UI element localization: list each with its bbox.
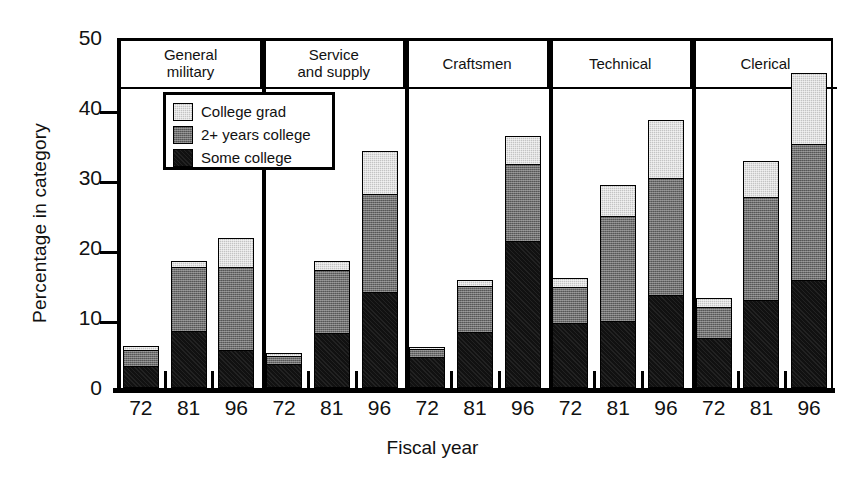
- x-axis-line: [113, 388, 835, 393]
- bar-segment-twoyr: [458, 286, 492, 332]
- bar-segment-grad: [601, 186, 635, 216]
- bar-segment-twoyr: [315, 270, 349, 333]
- x-minor-tick: [737, 371, 740, 388]
- legend-label-2plus-years-college: 2+ years college: [201, 127, 311, 142]
- x-tick-label: 81: [309, 396, 355, 420]
- bar-technical-96: [648, 120, 684, 388]
- bar-segment-some: [410, 357, 444, 387]
- bar-segment-grad: [649, 121, 683, 178]
- bar-segment-some: [172, 331, 206, 387]
- y-tick-label: 20: [56, 237, 102, 258]
- legend-swatch-college-grad: [173, 103, 193, 121]
- x-tick-label: 72: [404, 396, 450, 420]
- bar-segment-grad: [697, 299, 731, 308]
- bar-segment-twoyr: [124, 350, 158, 366]
- bar-craftsmen-81: [457, 280, 493, 389]
- bar-segment-twoyr: [744, 197, 778, 300]
- bar-service-72: [266, 353, 302, 388]
- group-header-2: Serviceand supply: [264, 41, 407, 87]
- bar-segment-grad: [792, 74, 826, 144]
- chart-legend: College grad 2+ years college Some colle…: [163, 92, 335, 170]
- group-header-label: Clerical: [740, 56, 790, 73]
- y-tick-label: 10: [56, 307, 102, 328]
- legend-item: 2+ years college: [173, 123, 326, 146]
- x-tick-label: 96: [357, 396, 403, 420]
- y-tick-mark: [100, 251, 121, 254]
- bar-segment-some: [363, 292, 397, 387]
- legend-label-college-grad: College grad: [201, 104, 286, 119]
- y-tick-mark: [100, 111, 121, 114]
- y-tick-label: 40: [56, 97, 102, 118]
- x-tick-label: 96: [786, 396, 832, 420]
- bar-service-96: [362, 151, 398, 388]
- x-tick-label: 81: [595, 396, 641, 420]
- bar-craftsmen-72: [409, 347, 445, 388]
- group-separator: [405, 41, 409, 391]
- bar-clerical-96: [791, 73, 827, 388]
- legend-item: Some college: [173, 146, 326, 169]
- legend-item: College grad: [173, 100, 326, 123]
- bar-segment-some: [697, 338, 731, 387]
- x-minor-tick: [593, 371, 596, 388]
- x-tick-label: 81: [452, 396, 498, 420]
- group-header-label: Technical: [589, 56, 652, 73]
- legend-label-some-college: Some college: [201, 150, 292, 165]
- bar-technical-81: [600, 185, 636, 388]
- x-minor-tick: [307, 371, 310, 388]
- y-axis-tick-labels: 01020304050: [47, 0, 102, 483]
- x-tick-label: 81: [738, 396, 784, 420]
- y-tick-label: 30: [56, 167, 102, 188]
- bar-segment-twoyr: [219, 267, 253, 350]
- bar-general-72: [123, 346, 159, 388]
- bar-segment-some: [553, 323, 587, 387]
- x-axis-title: Fiscal year: [0, 437, 865, 459]
- bar-segment-twoyr: [697, 307, 731, 338]
- bar-segment-some: [792, 280, 826, 387]
- legend-swatch-2plus-years-college: [173, 126, 193, 144]
- chart-figure: Percentage in category 01020304050 Gener…: [0, 0, 865, 483]
- group-header-label: Serviceand supply: [298, 47, 371, 81]
- bar-segment-some: [458, 332, 492, 387]
- bar-technical-72: [552, 278, 588, 388]
- x-tick-label: 96: [213, 396, 259, 420]
- x-minor-tick: [641, 371, 644, 388]
- bar-segment-some: [744, 300, 778, 388]
- bar-general-81: [171, 261, 207, 388]
- y-tick-mark: [100, 181, 121, 184]
- bar-craftsmen-96: [505, 136, 541, 388]
- bar-segment-twoyr: [172, 267, 206, 331]
- group-header-underline: [121, 87, 837, 89]
- legend-swatch-some-college: [173, 149, 193, 167]
- x-minor-tick: [450, 371, 453, 388]
- x-minor-tick: [164, 371, 167, 388]
- bar-segment-grad: [219, 239, 253, 268]
- bar-segment-some: [219, 350, 253, 387]
- bar-segment-grad: [506, 137, 540, 164]
- x-minor-tick: [784, 371, 787, 388]
- bar-segment-twoyr: [792, 144, 826, 280]
- bar-segment-grad: [744, 162, 778, 197]
- bar-segment-some: [315, 333, 349, 387]
- group-header-label: Generalmilitary: [164, 47, 217, 81]
- bar-segment-twoyr: [363, 194, 397, 292]
- bar-segment-grad: [315, 262, 349, 270]
- group-header-1: Generalmilitary: [121, 41, 264, 87]
- x-minor-tick: [211, 371, 214, 388]
- bar-segment-twoyr: [601, 216, 635, 320]
- x-tick-label: 72: [547, 396, 593, 420]
- bar-segment-twoyr: [410, 349, 444, 357]
- group-header-4: Technical: [551, 41, 694, 87]
- bar-segment-grad: [363, 152, 397, 193]
- bar-segment-some: [506, 241, 540, 387]
- y-tick-mark: [100, 321, 121, 324]
- bar-segment-some: [649, 295, 683, 387]
- bar-segment-twoyr: [553, 287, 587, 323]
- x-minor-tick: [498, 371, 501, 388]
- x-tick-label: 72: [118, 396, 164, 420]
- bar-segment-grad: [553, 279, 587, 287]
- x-tick-label: 96: [500, 396, 546, 420]
- bar-clerical-72: [696, 298, 732, 388]
- bar-segment-some: [124, 366, 158, 387]
- bar-service-81: [314, 261, 350, 388]
- bar-general-96: [218, 238, 254, 389]
